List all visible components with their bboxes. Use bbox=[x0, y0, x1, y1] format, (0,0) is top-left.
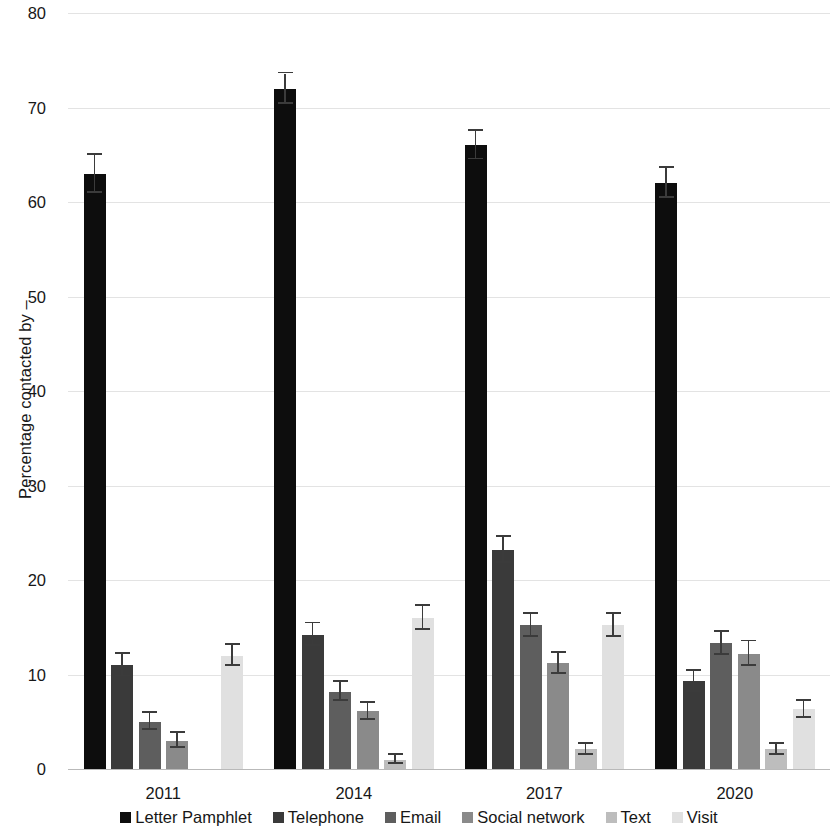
error-bar-cap-top bbox=[360, 701, 375, 703]
legend-label: Visit bbox=[687, 808, 718, 827]
bar[interactable] bbox=[710, 643, 732, 769]
error-bar-cap-bottom bbox=[87, 191, 102, 193]
error-bar-cap-top bbox=[606, 612, 621, 614]
error-bar-cap-bottom bbox=[225, 664, 240, 666]
bar[interactable] bbox=[465, 145, 487, 769]
error-bar-cap-bottom bbox=[659, 196, 674, 198]
bar-slot bbox=[575, 13, 597, 769]
error-bar bbox=[693, 671, 695, 692]
bar[interactable] bbox=[793, 709, 815, 769]
bar-slot bbox=[547, 13, 569, 769]
error-bar-cap-bottom bbox=[170, 746, 185, 748]
error-bar bbox=[720, 632, 722, 655]
bar-slot bbox=[765, 13, 787, 769]
legend-item[interactable]: Telephone bbox=[273, 808, 364, 827]
y-tick-label: 40 bbox=[0, 382, 46, 401]
error-bar-cap-top bbox=[388, 753, 403, 755]
error-bar-cap-bottom bbox=[606, 635, 621, 637]
bar[interactable] bbox=[412, 618, 434, 769]
y-tick-label: 0 bbox=[0, 760, 46, 779]
error-bar bbox=[502, 537, 504, 563]
error-bar-cap-top bbox=[225, 643, 240, 645]
error-bar-cap-top bbox=[523, 612, 538, 614]
x-tick-label: 2014 bbox=[259, 784, 450, 803]
bar-slot bbox=[710, 13, 732, 769]
error-bar bbox=[121, 654, 123, 677]
legend-swatch-icon bbox=[672, 812, 683, 823]
bar-slot bbox=[384, 13, 406, 769]
bar-group: 2011 bbox=[68, 13, 259, 769]
legend-item[interactable]: Text bbox=[606, 808, 651, 827]
legend-swatch-icon bbox=[385, 812, 396, 823]
y-tick-label: 60 bbox=[0, 193, 46, 212]
bar-slot bbox=[520, 13, 542, 769]
legend-item[interactable]: Letter Pamphlet bbox=[120, 808, 251, 827]
bar-slot bbox=[738, 13, 760, 769]
legend-item[interactable]: Visit bbox=[672, 808, 718, 827]
error-bar-cap-top bbox=[659, 166, 674, 168]
legend-swatch-icon bbox=[606, 812, 617, 823]
error-bar-cap-bottom bbox=[115, 675, 130, 677]
bar[interactable] bbox=[683, 681, 705, 769]
error-bar-cap-bottom bbox=[686, 690, 701, 692]
error-bar-cap-top bbox=[796, 699, 811, 701]
y-tick-label: 50 bbox=[0, 288, 46, 307]
bar[interactable] bbox=[357, 711, 379, 769]
legend-item[interactable]: Social network bbox=[462, 808, 584, 827]
bar-cluster bbox=[68, 13, 274, 769]
bar[interactable] bbox=[547, 663, 569, 769]
error-bar-cap-top bbox=[578, 742, 593, 744]
bar[interactable] bbox=[492, 550, 514, 769]
error-bar-cap-top bbox=[333, 680, 348, 682]
error-bar bbox=[231, 645, 233, 666]
error-bar-cap-bottom bbox=[388, 762, 403, 764]
error-bar-cap-bottom bbox=[305, 644, 320, 646]
bar-slot bbox=[221, 13, 243, 769]
bar[interactable] bbox=[302, 635, 324, 769]
bar[interactable] bbox=[520, 625, 542, 769]
bar[interactable] bbox=[329, 692, 351, 769]
legend-item[interactable]: Email bbox=[385, 808, 441, 827]
bar-slot bbox=[194, 13, 216, 769]
bar-cluster bbox=[640, 13, 838, 769]
error-bar-cap-top bbox=[87, 153, 102, 155]
y-tick-label: 80 bbox=[0, 4, 46, 23]
error-bar bbox=[422, 606, 424, 631]
bar-slot bbox=[302, 13, 324, 769]
error-bar bbox=[530, 614, 532, 637]
error-bar-cap-bottom bbox=[523, 635, 538, 637]
x-tick-label: 2020 bbox=[640, 784, 831, 803]
chart-legend: Letter PamphletTelephoneEmailSocial netw… bbox=[0, 808, 838, 827]
bar-slot bbox=[139, 13, 161, 769]
bar[interactable] bbox=[274, 89, 296, 769]
legend-swatch-icon bbox=[120, 812, 131, 823]
bar-slot bbox=[492, 13, 514, 769]
bar-slot bbox=[602, 13, 624, 769]
bar[interactable] bbox=[738, 654, 760, 769]
bar[interactable] bbox=[655, 183, 677, 769]
bar[interactable] bbox=[221, 656, 243, 769]
bar[interactable] bbox=[602, 625, 624, 769]
plot-area: 010203040506070802011201420172020 bbox=[68, 13, 830, 769]
bar-chart: Percentage contacted by – 01020304050607… bbox=[0, 0, 838, 835]
error-bar-cap-bottom bbox=[468, 158, 483, 160]
error-bar-cap-bottom bbox=[360, 718, 375, 720]
error-bar-cap-top bbox=[714, 630, 729, 632]
legend-label: Email bbox=[400, 808, 441, 827]
bar-slot bbox=[329, 13, 351, 769]
bar-slot bbox=[465, 13, 487, 769]
bar[interactable] bbox=[111, 665, 133, 769]
legend-label: Text bbox=[621, 808, 651, 827]
error-bar-cap-top bbox=[115, 652, 130, 654]
bar[interactable] bbox=[84, 174, 106, 769]
error-bar-cap-bottom bbox=[714, 653, 729, 655]
legend-label: Telephone bbox=[288, 808, 364, 827]
error-bar-cap-bottom bbox=[415, 628, 430, 630]
error-bar-cap-top bbox=[305, 622, 320, 624]
bar-group: 2017 bbox=[449, 13, 640, 769]
error-bar-cap-top bbox=[170, 731, 185, 733]
error-bar-cap-bottom bbox=[278, 102, 293, 104]
error-bar-cap-top bbox=[468, 129, 483, 131]
bar-slot bbox=[166, 13, 188, 769]
x-tick-label: 2017 bbox=[449, 784, 640, 803]
